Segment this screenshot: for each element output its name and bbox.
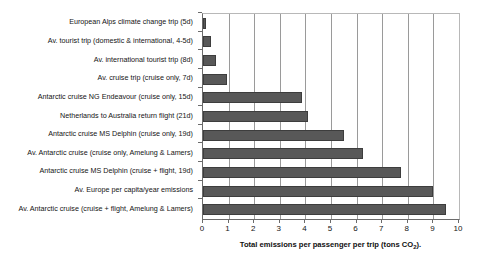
x-tick-mark xyxy=(304,219,305,223)
bar-slot xyxy=(203,33,459,52)
category-row: Av. cruise trip (cruise only, 7d) xyxy=(0,69,198,88)
category-label: Av. Antarctic cruise (cruise only, Amelu… xyxy=(27,149,193,157)
bar-slot xyxy=(203,200,459,219)
x-tick-label: 2 xyxy=(251,224,255,233)
x-tick-label: 1 xyxy=(225,224,229,233)
category-row: Av. Europe per capita/year emissions xyxy=(0,181,198,200)
bar xyxy=(203,92,302,103)
x-tick-mark xyxy=(253,219,254,223)
x-tick-mark xyxy=(432,219,433,223)
x-tick-mark xyxy=(330,219,331,223)
x-tick-label: 0 xyxy=(200,224,204,233)
bar xyxy=(203,36,211,47)
bar-slot xyxy=(203,107,459,126)
category-label: Av. tourist trip (domestic & internation… xyxy=(48,37,193,45)
x-tick-mark xyxy=(381,219,382,223)
bar xyxy=(203,130,344,141)
category-row: Antarctic cruise MS Delphin (cruise + fl… xyxy=(0,162,198,181)
category-row: Av. Antarctic cruise (cruise only, Amelu… xyxy=(0,143,198,162)
bar-slot xyxy=(203,144,459,163)
x-tick-mark xyxy=(202,219,203,223)
x-tick-mark xyxy=(356,219,357,223)
bar-slot xyxy=(203,14,459,33)
x-tick-label: 6 xyxy=(353,224,357,233)
category-row: Antarctic cruise NG Endeavour (cruise on… xyxy=(0,88,198,107)
bar xyxy=(203,55,216,66)
x-tick-mark xyxy=(279,219,280,223)
x-tick-label: 10 xyxy=(454,224,463,233)
x-axis-title-subscript: 2 xyxy=(413,244,416,250)
x-tick-mark xyxy=(458,219,459,223)
category-label: Netherlands to Australia return flight (… xyxy=(60,112,193,120)
bar-slot xyxy=(203,70,459,89)
category-label: Av. Antarctic cruise (cruise + flight, A… xyxy=(19,205,194,213)
emissions-bar-chart: European Alps climate change trip (5d)Av… xyxy=(0,0,477,262)
bar-slot xyxy=(203,182,459,201)
bar xyxy=(203,204,446,215)
category-label: Antarctic cruise MS Delphin (cruise + fl… xyxy=(39,167,193,175)
x-axis-tick-labels: 012345678910 xyxy=(202,224,459,236)
category-label: Antarctic cruise NG Endeavour (cruise on… xyxy=(38,93,193,101)
bar-slot xyxy=(203,89,459,108)
category-axis: European Alps climate change trip (5d)Av… xyxy=(0,13,198,218)
category-label: Av. international tourist trip (8d) xyxy=(94,56,193,64)
category-row: Netherlands to Australia return flight (… xyxy=(0,106,198,125)
category-row: Av. tourist trip (domestic & internation… xyxy=(0,32,198,51)
bar xyxy=(203,167,401,178)
plot-area xyxy=(202,13,460,220)
category-label: Av. Europe per capita/year emissions xyxy=(75,186,193,194)
category-row: Av. international tourist trip (8d) xyxy=(0,50,198,69)
bar xyxy=(203,148,363,159)
x-tick-label: 4 xyxy=(302,224,306,233)
bar xyxy=(203,111,308,122)
bar xyxy=(203,18,206,29)
category-row: Av. Antarctic cruise (cruise + flight, A… xyxy=(0,199,198,218)
x-axis-title: Total emissions per passenger per trip (… xyxy=(202,240,459,249)
x-tick-label: 5 xyxy=(328,224,332,233)
bar-slot xyxy=(203,126,459,145)
bar-slot xyxy=(203,51,459,70)
category-row: Antarctic cruise MS Delphin (cruise only… xyxy=(0,125,198,144)
category-label: Antarctic cruise MS Delphin (cruise only… xyxy=(48,130,193,138)
x-tick-label: 3 xyxy=(277,224,281,233)
bar-slot xyxy=(203,163,459,182)
category-row: European Alps climate change trip (5d) xyxy=(0,13,198,32)
bars-layer xyxy=(203,14,459,219)
x-tick-mark xyxy=(228,219,229,223)
x-tick-label: 7 xyxy=(379,224,383,233)
x-tick-label: 8 xyxy=(405,224,409,233)
x-tick-mark xyxy=(407,219,408,223)
bar xyxy=(203,186,433,197)
category-label: European Alps climate change trip (5d) xyxy=(69,18,193,26)
x-tick-label: 9 xyxy=(430,224,434,233)
category-label: Av. cruise trip (cruise only, 7d) xyxy=(98,74,193,82)
bar xyxy=(203,74,227,85)
